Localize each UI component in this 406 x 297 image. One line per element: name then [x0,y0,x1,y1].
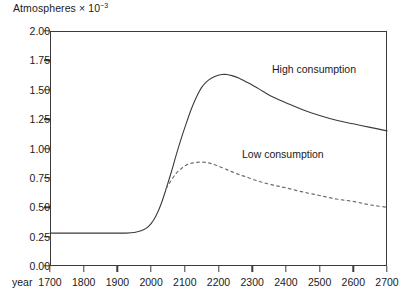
annotation-low-consumption: Low consumption [242,148,324,160]
chart-container: Atmospheres × 10−3 0.000.250.500.751.001… [0,0,406,297]
curve-high-consumption [50,74,387,233]
curve-low-consumption [166,162,387,207]
chart-curves [0,0,406,297]
annotation-high-consumption: High consumption [272,63,356,75]
